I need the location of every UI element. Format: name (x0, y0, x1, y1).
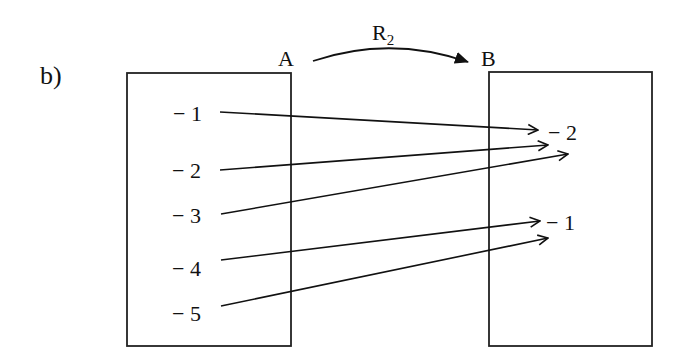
mapping-arrow-4 (221, 221, 540, 260)
set-a-element: − 2 (172, 160, 201, 182)
relation-name: R (372, 20, 387, 45)
relation-arrow (313, 48, 468, 62)
diagram-canvas (0, 0, 688, 364)
set-b-box (489, 72, 652, 346)
set-a-element: − 5 (172, 303, 201, 325)
relation-label: R2 (372, 22, 394, 48)
mapping-arrow-1 (220, 112, 538, 130)
set-a-element: − 3 (172, 205, 201, 227)
set-a-element: − 4 (172, 258, 201, 280)
set-b-label: B (481, 48, 496, 70)
part-label: b) (40, 63, 62, 89)
set-a-element: − 1 (173, 103, 202, 125)
mapping-arrow-5 (221, 238, 548, 306)
set-a-label: A (278, 48, 294, 70)
set-b-element: − 1 (546, 212, 575, 234)
set-b-element: − 2 (548, 122, 577, 144)
mapping-arrow-3 (221, 154, 568, 214)
relation-subscript: 2 (387, 32, 395, 48)
